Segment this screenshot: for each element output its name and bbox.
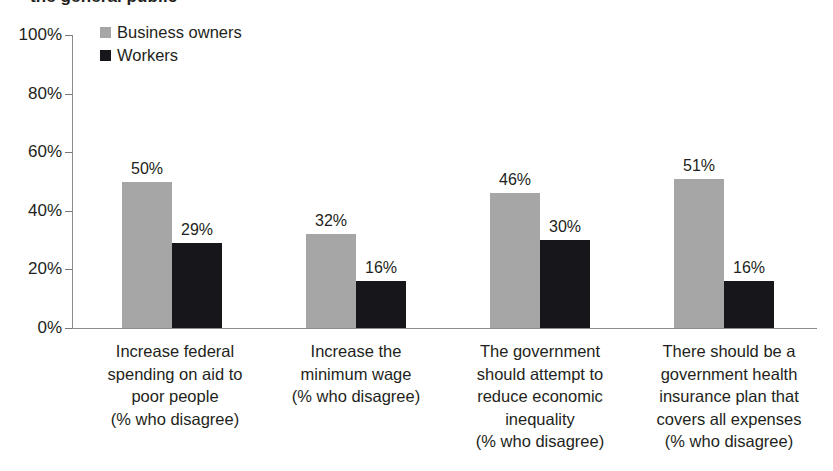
y-axis-tick bbox=[65, 35, 72, 36]
category-line: Increase federal bbox=[85, 340, 265, 363]
x-axis-category-label: Increase federal spending on aid to poor… bbox=[85, 340, 265, 430]
x-axis-category-label: The government should attempt to reduce … bbox=[450, 340, 630, 453]
bar-workers[interactable] bbox=[724, 281, 774, 328]
y-axis-labels: 100% 80% 60% 40% 20% 0% bbox=[0, 0, 62, 471]
category-line: insurance plan that bbox=[634, 385, 824, 408]
category-line: The government bbox=[450, 340, 630, 363]
category-line: (% who disagree) bbox=[266, 385, 446, 408]
category-line: spending on aid to bbox=[85, 363, 265, 386]
bar-business-owners[interactable] bbox=[122, 182, 172, 329]
y-axis-tick bbox=[65, 269, 72, 270]
chart-page: the general public Business owners Worke… bbox=[0, 0, 833, 471]
plot-area: 100% 80% 60% 40% 20% 0% 50% 29% Increase… bbox=[0, 0, 833, 471]
y-axis-tick bbox=[65, 94, 72, 95]
category-line: covers all expenses bbox=[634, 408, 824, 431]
bar-value-label: 50% bbox=[122, 160, 172, 178]
y-axis-tick bbox=[65, 152, 72, 153]
bar-workers[interactable] bbox=[172, 243, 222, 328]
bar-value-label: 16% bbox=[724, 259, 774, 277]
x-axis-line bbox=[72, 328, 817, 329]
y-axis-tick-label: 60% bbox=[28, 142, 62, 162]
category-line: poor people bbox=[85, 385, 265, 408]
category-line: Increase the bbox=[266, 340, 446, 363]
x-axis-category-label: Increase the minimum wage (% who disagre… bbox=[266, 340, 446, 408]
bar-business-owners[interactable] bbox=[674, 179, 724, 328]
bar-business-owners[interactable] bbox=[306, 234, 356, 328]
y-axis-tick-label: 20% bbox=[28, 259, 62, 279]
bar-value-label: 29% bbox=[172, 221, 222, 239]
category-line: There should be a bbox=[634, 340, 824, 363]
bar-value-label: 16% bbox=[356, 259, 406, 277]
category-line: (% who disagree) bbox=[450, 430, 630, 453]
y-axis-line bbox=[72, 35, 73, 328]
y-axis-tick-label: 80% bbox=[28, 84, 62, 104]
bar-business-owners[interactable] bbox=[490, 193, 540, 328]
x-axis-category-label: There should be a government health insu… bbox=[634, 340, 824, 453]
category-line: inequality bbox=[450, 408, 630, 431]
category-line: government health bbox=[634, 363, 824, 386]
bar-value-label: 46% bbox=[490, 171, 540, 189]
bar-workers[interactable] bbox=[356, 281, 406, 328]
bar-value-label: 51% bbox=[674, 157, 724, 175]
category-line: minimum wage bbox=[266, 363, 446, 386]
bar-value-label: 32% bbox=[306, 212, 356, 230]
category-line: (% who disagree) bbox=[634, 430, 824, 453]
category-line: should attempt to bbox=[450, 363, 630, 386]
category-line: (% who disagree) bbox=[85, 408, 265, 431]
y-axis-tick bbox=[65, 211, 72, 212]
y-axis-tick-label: 100% bbox=[19, 25, 62, 45]
bar-workers[interactable] bbox=[540, 240, 590, 328]
y-axis-tick-label: 40% bbox=[28, 201, 62, 221]
category-line: reduce economic bbox=[450, 385, 630, 408]
y-axis-tick bbox=[65, 328, 72, 329]
bar-value-label: 30% bbox=[540, 218, 590, 236]
y-axis-tick-label: 0% bbox=[37, 318, 62, 338]
